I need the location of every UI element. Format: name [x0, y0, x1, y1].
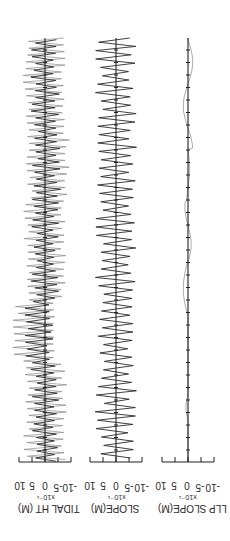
axis-label-llp-slope: LLP SLOPE(M) — [158, 503, 227, 514]
tick-label: -5 — [122, 482, 136, 493]
tick-label: -10 — [135, 482, 149, 493]
scale-factor: x10⁻¹ — [108, 493, 126, 501]
tick-label: 5 — [96, 480, 110, 491]
axis-label-slope: SLOPE(M) — [91, 503, 139, 514]
tick-label: 5 — [25, 480, 39, 491]
axis-label-tidal-height: TIDAL HT (M) — [18, 503, 80, 514]
tick-label: 0 — [180, 480, 194, 491]
scale-factor: x10⁻¹ — [37, 493, 55, 501]
tick-label: 0 — [109, 480, 123, 491]
tick-label: -10 — [63, 482, 77, 493]
rotated-timeseries-figure — [0, 0, 230, 541]
tick-label: 0 — [38, 480, 52, 491]
tick-label: 5 — [167, 480, 181, 491]
tidal-height-trace — [13, 38, 70, 461]
tick-label: -10 — [206, 482, 220, 493]
tick-label: 10 — [83, 480, 97, 491]
tick-label: 10 — [154, 480, 168, 491]
tick-label: -5 — [193, 482, 207, 493]
scale-factor: x10⁻¹ — [179, 493, 197, 501]
